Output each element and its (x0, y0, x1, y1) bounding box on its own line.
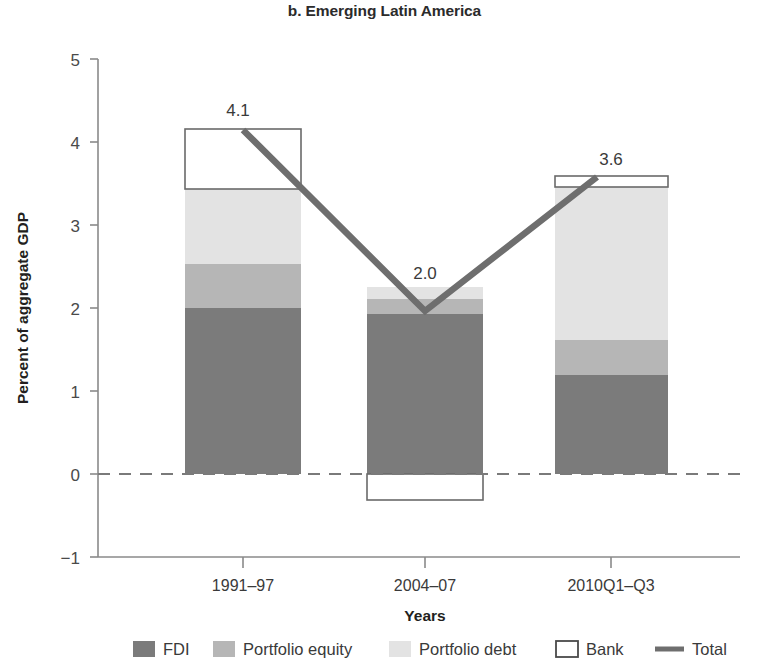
value-label-total-1: 4.1 (226, 101, 250, 120)
x-tick-label-3: 2010Q1–Q3 (567, 577, 654, 594)
legend-swatch-portfolio-equity (213, 641, 235, 657)
bar-segment-bank-3[interactable] (555, 176, 668, 187)
legend-swatch-fdi (133, 641, 155, 657)
bar-segment-portfolio-debt-2[interactable] (367, 287, 483, 299)
value-label-total-2: 2.0 (413, 264, 437, 283)
y-tick-label-0: 0 (71, 466, 80, 485)
bar-segment-bank-1[interactable] (185, 129, 301, 189)
y-tick-label-1: 1 (71, 383, 80, 402)
legend-swatch-bank (556, 641, 578, 657)
chart-legend: FDI Portfolio equity Portfolio debt Bank… (133, 640, 727, 658)
legend-item-portfolio-equity[interactable]: Portfolio equity (213, 640, 353, 658)
legend-item-total[interactable]: Total (655, 640, 727, 658)
bar-segment-fdi-3[interactable] (555, 375, 668, 474)
y-tick-label-neg1: −1 (61, 549, 80, 568)
y-tick-label-5: 5 (71, 51, 80, 70)
legend-item-fdi[interactable]: FDI (133, 640, 190, 658)
bar-segment-fdi-1[interactable] (185, 308, 301, 474)
y-tick-label-3: 3 (71, 217, 80, 236)
legend-label-portfolio-equity: Portfolio equity (243, 640, 353, 658)
bar-segment-portfolio-equity-3[interactable] (555, 340, 668, 375)
legend-label-fdi: FDI (163, 640, 190, 658)
bar-group-2010q1-q3[interactable] (555, 176, 668, 474)
legend-item-bank[interactable]: Bank (556, 640, 624, 658)
bar-segment-portfolio-equity-1[interactable] (185, 264, 301, 308)
bar-segment-portfolio-debt-3[interactable] (555, 187, 668, 340)
x-axis-title: Years (404, 607, 445, 624)
bar-segment-fdi-2[interactable] (367, 314, 483, 474)
value-label-total-3: 3.6 (599, 150, 623, 169)
y-axis-title: Percent of aggregate GDP (14, 212, 31, 404)
legend-item-portfolio-debt[interactable]: Portfolio debt (389, 640, 517, 658)
legend-label-bank: Bank (586, 640, 624, 658)
x-tick-label-1: 1991–97 (212, 577, 274, 594)
bar-group-1991-97[interactable] (185, 129, 301, 474)
legend-label-total: Total (692, 640, 727, 658)
legend-label-portfolio-debt: Portfolio debt (419, 640, 517, 658)
bar-group-2004-07[interactable] (367, 287, 483, 500)
x-tick-label-2: 2004–07 (394, 577, 456, 594)
y-tick-label-2: 2 (71, 300, 80, 319)
chart-plot-area: 5 4 3 2 1 0 −1 Percent of aggregate GDP … (0, 0, 769, 664)
bar-segment-portfolio-debt-1[interactable] (185, 189, 301, 264)
y-axis: 5 4 3 2 1 0 −1 Percent of aggregate GDP (14, 51, 98, 568)
y-tick-label-4: 4 (71, 134, 80, 153)
x-axis: 1991–97 2004–07 2010Q1–Q3 Years (98, 557, 740, 624)
figure-container: b. Emerging Latin America 5 4 3 2 1 0 −1… (0, 0, 769, 664)
bar-segment-bank-2[interactable] (367, 474, 483, 500)
legend-swatch-portfolio-debt (389, 641, 411, 657)
